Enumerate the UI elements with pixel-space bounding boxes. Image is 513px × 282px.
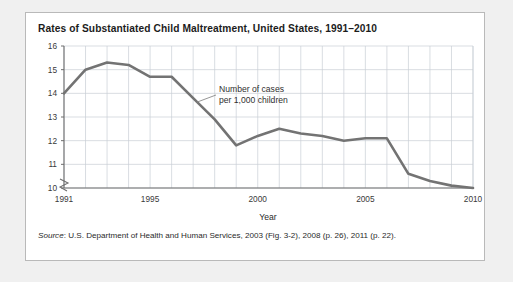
- source-note-label: Source: [38, 231, 64, 240]
- annotation-label-line2: per 1,000 children: [219, 95, 288, 105]
- x-axis-tick-label: 2000: [249, 194, 268, 204]
- y-axis-tick-label: 11: [48, 159, 57, 169]
- x-axis-tick-label: 2005: [356, 194, 375, 204]
- line-chart-svg: 10111213141516 19911995200020052010 Numb…: [26, 13, 486, 262]
- y-axis-tick-label: 10: [48, 183, 58, 193]
- y-axis-tick-label: 13: [48, 112, 58, 122]
- x-axis-tick-label: 1995: [141, 194, 160, 204]
- horizontal-gridlines: [64, 46, 473, 188]
- x-axis-title: Year: [259, 212, 277, 222]
- source-note: Source: U.S. Department of Health and Hu…: [38, 231, 396, 240]
- x-axis-tick-label: 2010: [464, 194, 483, 204]
- figure-card: Rates of Substantiated Child Maltreatmen…: [25, 12, 485, 261]
- y-axis-tick-label: 14: [48, 88, 58, 98]
- annotation-label-line1: Number of cases: [219, 84, 284, 94]
- series-line-number-of-cases: [64, 63, 473, 188]
- chart-axes: [60, 46, 473, 191]
- x-axis-tick-label: 1991: [55, 194, 74, 204]
- y-axis-tick-label: 12: [48, 136, 58, 146]
- y-axis-tick-label: 15: [48, 65, 58, 75]
- y-axis-break-icon: [60, 179, 68, 191]
- chart-plot-area: 10111213141516 19911995200020052010 Numb…: [26, 13, 486, 262]
- annotation-leader-line: [197, 95, 216, 102]
- y-axis-tick-label: 16: [48, 41, 58, 51]
- y-axis-tick-labels: 10111213141516: [48, 41, 58, 193]
- source-note-text: : U.S. Department of Health and Human Se…: [64, 231, 396, 240]
- x-axis-tick-labels: 19911995200020052010: [55, 194, 483, 204]
